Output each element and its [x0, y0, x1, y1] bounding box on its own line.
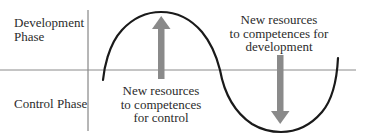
- control-phase-label: Control Phase: [14, 97, 87, 111]
- control-annotation-line-3: for control: [121, 111, 202, 125]
- arrow-down-icon: [271, 55, 290, 124]
- development-resources-annotation: New resources to competences for develop…: [230, 13, 329, 54]
- development-phase-line-1: Development: [14, 16, 84, 30]
- development-annotation-line-1: New resources: [230, 13, 329, 27]
- control-phase-line-1: Control Phase: [14, 97, 87, 111]
- control-resources-annotation: New resources to competences for control: [121, 84, 202, 125]
- control-annotation-line-2: to competences: [121, 98, 202, 112]
- development-phase-line-2: Phase: [14, 30, 84, 44]
- development-phase-label: Development Phase: [14, 16, 84, 43]
- development-annotation-line-2: to competences for: [230, 27, 329, 41]
- development-annotation-line-3: development: [230, 40, 329, 54]
- control-annotation-line-1: New resources: [121, 84, 202, 98]
